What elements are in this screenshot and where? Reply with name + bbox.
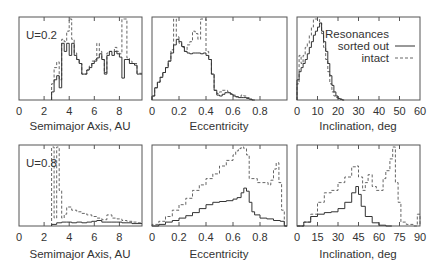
x-tick-label: 8 [116, 231, 122, 243]
legend-title: Resonances [325, 28, 389, 40]
x-ticks: 00.20.40.60.8 [149, 145, 268, 243]
x-tick-label: 0 [16, 105, 22, 117]
panel-top-right: 0102030405060 Inclination, deg Resonance… [294, 17, 426, 132]
series-group [152, 147, 287, 226]
series-sorted-out [52, 43, 142, 100]
legend-label-intact: intact [362, 52, 390, 64]
x-axis-label: Inclination, deg [319, 120, 396, 132]
series-group [152, 19, 255, 100]
series-sorted-out [52, 221, 142, 227]
x-tick-label: 2 [41, 105, 47, 117]
x-tick-label: 6 [91, 231, 97, 243]
x-tick-label: 0 [149, 231, 155, 243]
figure: 02468 U=0.2 Semimajor Axis, AU 00.20.40.… [0, 0, 440, 272]
x-tick-label: 0.6 [225, 105, 240, 117]
panel-annotation: U=0.8 [26, 157, 57, 169]
series-sorted-out [152, 39, 255, 100]
x-tick-label: 45 [352, 231, 364, 243]
x-ticks: 00.20.40.60.8 [149, 17, 268, 117]
x-tick-label: 20 [332, 105, 344, 117]
x-axis-label: Eccentricity [190, 248, 249, 260]
x-axis-label: Semimajor Axis, AU [30, 248, 131, 260]
series-group [52, 147, 142, 226]
series-intact [52, 147, 142, 226]
x-tick-label: 0 [294, 231, 300, 243]
x-tick-label: 50 [393, 105, 405, 117]
panel-top-left: 02468 U=0.2 Semimajor Axis, AU [16, 17, 142, 132]
series-sorted-out [152, 188, 287, 226]
series-intact [152, 19, 255, 100]
legend: Resonances sorted out intact [325, 28, 415, 64]
x-tick-label: 0.2 [171, 231, 186, 243]
x-tick-label: 0 [16, 231, 22, 243]
panel-top-middle: 00.20.40.60.8 Eccentricity [149, 17, 287, 132]
x-tick-label: 0 [294, 105, 300, 117]
x-tick-label: 4 [66, 231, 72, 243]
x-tick-label: 10 [311, 105, 323, 117]
panel-bottom-middle: 00.20.40.60.8 Eccentricity [149, 145, 287, 260]
x-tick-label: 60 [414, 105, 426, 117]
x-axis-label: Inclination, deg [319, 248, 396, 260]
x-tick-label: 0.6 [225, 231, 240, 243]
x-tick-label: 30 [332, 231, 344, 243]
x-tick-label: 0.4 [198, 105, 213, 117]
x-tick-label: 60 [373, 231, 385, 243]
x-tick-label: 8 [116, 105, 122, 117]
x-tick-label: 0.8 [252, 231, 267, 243]
x-tick-label: 40 [373, 105, 385, 117]
x-tick-label: 15 [311, 231, 323, 243]
series-sorted-out [297, 187, 392, 227]
x-tick-label: 0.2 [171, 105, 186, 117]
panel-bottom-right: 0153045607590 Inclination, deg [294, 145, 426, 260]
x-tick-label: 75 [393, 231, 405, 243]
series-intact [152, 147, 287, 226]
panel-bottom-left: 02468 U=0.8 Semimajor Axis, AU [16, 145, 142, 260]
x-tick-label: 4 [66, 105, 72, 117]
series-group [52, 19, 142, 100]
x-tick-label: 30 [352, 105, 364, 117]
x-tick-label: 2 [41, 231, 47, 243]
x-tick-label: 0 [149, 105, 155, 117]
legend-label-sorted-out: sorted out [338, 40, 390, 52]
plot-frame [152, 17, 287, 100]
x-tick-label: 6 [91, 105, 97, 117]
panel-annotation: U=0.2 [26, 29, 57, 41]
x-tick-label: 0.4 [198, 231, 213, 243]
x-axis-label: Semimajor Axis, AU [30, 120, 131, 132]
x-tick-label: 0.8 [252, 105, 267, 117]
series-group [297, 147, 420, 226]
x-axis-label: Eccentricity [190, 120, 249, 132]
x-tick-label: 90 [414, 231, 426, 243]
